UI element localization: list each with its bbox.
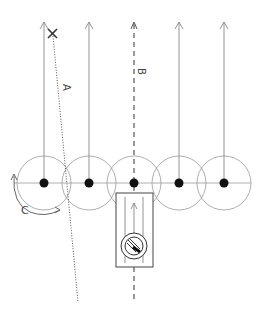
arrow-up-icon xyxy=(40,22,48,183)
x-marker-icon xyxy=(48,29,57,38)
arrow-up-icon xyxy=(220,22,228,183)
center-dot xyxy=(40,179,49,188)
label-b: B xyxy=(136,68,147,75)
label-c: C xyxy=(21,204,29,217)
arrow-up-icon xyxy=(85,22,93,183)
center-dot xyxy=(85,179,94,188)
center-dot xyxy=(175,179,184,188)
center-dot xyxy=(220,179,229,188)
arrow-up-icon xyxy=(175,22,183,183)
knob-icon xyxy=(121,233,147,259)
diagram-canvas: A B C xyxy=(0,0,263,317)
center-dot xyxy=(130,179,139,188)
dotted-line-a xyxy=(53,36,78,302)
label-a: A xyxy=(61,84,72,91)
